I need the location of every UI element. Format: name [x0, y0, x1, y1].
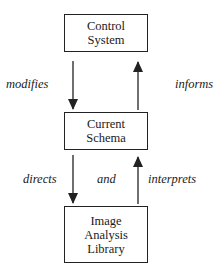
edge-label-modifies: modifies: [6, 77, 48, 91]
box-text-line: Library: [87, 242, 124, 256]
edge-label-directs: directs: [23, 172, 57, 186]
edge-label-interprets: interprets: [148, 172, 196, 186]
box-current-schema: Current Schema: [64, 112, 148, 150]
box-text-line: Schema: [86, 131, 126, 145]
modifies-arrowhead-icon: [68, 99, 78, 110]
box-text-line: Analysis: [84, 228, 128, 242]
box-control-system: Control System: [64, 14, 148, 52]
edge-label-and: and: [97, 172, 116, 186]
box-text-line: System: [88, 33, 125, 47]
directs-arrowhead-icon: [68, 193, 78, 204]
box-text-line: Image: [90, 214, 121, 228]
box-text-line: Current: [87, 117, 125, 131]
informs-arrowhead-icon: [133, 61, 143, 72]
box-text-line: Control: [87, 19, 125, 33]
box-image-analysis-library: Image Analysis Library: [64, 206, 148, 263]
interprets-arrowhead-icon: [133, 156, 143, 167]
edge-label-informs: informs: [175, 77, 213, 91]
